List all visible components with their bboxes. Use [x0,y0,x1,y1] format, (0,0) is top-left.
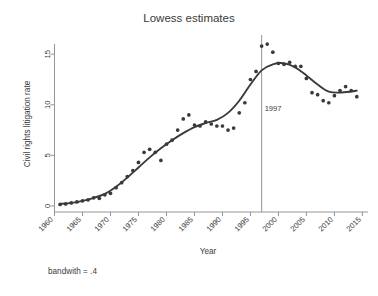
scatter-point [305,77,309,81]
scatter-point [237,111,241,115]
scatter-point [120,181,124,185]
y-tick-label: 10 [43,101,52,109]
scatter-point [109,191,113,195]
scatter-point [170,138,174,142]
x-tick-label: 1980 [149,215,167,233]
scatter-point [204,120,208,124]
scatter-point [226,128,230,132]
scatter-point [333,94,337,98]
scatter-point [153,150,157,154]
x-axis: 1960196519701975198019851990199520002005… [37,212,368,256]
scatter-point [103,193,107,197]
x-axis-title: Year [200,247,217,256]
y-axis-title: Civil rights litigation rate [23,80,32,167]
scatter-point [327,101,331,105]
scatter-point [181,117,185,121]
y-tick-label: 15 [43,50,52,58]
scatter-point [114,186,118,190]
x-tick-label: 1985 [177,215,195,233]
y-tick-label: 5 [43,153,52,157]
scatter-point [260,44,264,48]
scatter-point [277,61,281,65]
scatter-point [249,78,253,82]
scatter-point [338,89,342,93]
x-tick-label: 1970 [93,215,111,233]
x-tick-label: 1990 [205,215,223,233]
scatter-point [69,201,73,205]
scatter-point [176,128,180,132]
chart-title: Lowess estimates [143,12,235,24]
x-axis-ticks: 1960196519701975198019851990199520002005… [37,212,363,233]
x-tick-label: 1960 [37,215,55,233]
scatter-point [198,124,202,128]
scatter-point [232,126,236,130]
x-tick-label: 2015 [344,215,362,233]
scatter-point [293,64,297,68]
scatter-point [299,64,303,68]
scatter-points [58,42,358,206]
scatter-point [159,159,163,163]
lowess-smooth-line [60,63,357,204]
y-axis-ticks: 051015 [43,50,55,208]
chart-canvas: Lowess estimates 051015 Civil rights lit… [0,0,378,296]
scatter-point [187,113,191,117]
scatter-point [344,85,348,89]
y-axis: 051015 Civil rights litigation rate [23,44,55,212]
x-tick-label: 1965 [65,215,83,233]
scatter-point [58,203,62,207]
scatter-point [271,50,275,54]
x-tick-label: 1995 [233,215,251,233]
scatter-point [282,62,286,66]
scatter-point [86,198,90,202]
x-tick-label: 2000 [261,215,279,233]
scatter-point [131,169,135,173]
scatter-point [165,142,169,146]
bandwidth-note: bandwith = .4 [48,267,97,276]
scatter-point [81,199,85,203]
lowess-curve [60,63,357,204]
scatter-point [355,95,359,99]
x-tick-label: 2005 [289,215,307,233]
scatter-point [125,175,129,179]
scatter-point [75,200,79,204]
scatter-point [148,147,152,151]
scatter-point [288,60,292,64]
scatter-point [209,122,213,126]
scatter-point [316,93,320,97]
scatter-point [137,161,141,165]
scatter-point [215,124,219,128]
scatter-point [97,196,101,200]
y-tick-label: 0 [43,204,52,208]
scatter-point [265,42,269,46]
x-tick-label: 1975 [121,215,139,233]
lowess-chart-figure: Lowess estimates 051015 Civil rights lit… [0,0,378,296]
scatter-point [142,150,146,154]
scatter-point [349,89,353,93]
x-tick-label: 2010 [317,215,335,233]
scatter-point [64,202,68,206]
scatter-point [254,70,258,74]
scatter-point [92,196,96,200]
scatter-point [221,124,225,128]
scatter-point [310,91,314,95]
scatter-point [243,101,247,105]
scatter-point [321,99,325,103]
scatter-point [193,123,197,127]
reference-line-1997-label: 1997 [265,104,282,113]
